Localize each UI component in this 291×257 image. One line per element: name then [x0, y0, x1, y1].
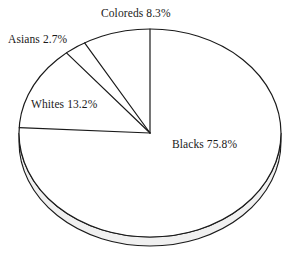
slice-label-whites: Whites 13.2%	[31, 99, 97, 111]
slice-label-coloreds: Coloreds 8.3%	[101, 8, 171, 20]
slice-label-blacks: Blacks 75.8%	[172, 139, 237, 151]
slice-label-asians: Asians 2.7%	[8, 34, 67, 46]
pie-chart: Coloreds 8.3% Asians 2.7% Whites 13.2% B…	[0, 0, 291, 257]
